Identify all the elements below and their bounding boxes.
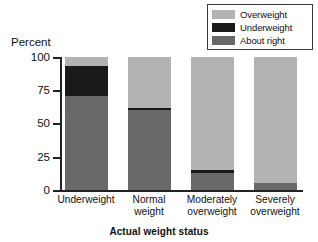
bar-underweight — [65, 57, 108, 190]
legend-label-underweight: Underweight — [240, 22, 292, 33]
bar-normal-weight — [128, 57, 171, 190]
y-tick-label-25: 25 — [10, 151, 50, 163]
x-axis-line — [56, 190, 303, 192]
bar-segment-about-right — [254, 183, 297, 190]
y-tick-100 — [53, 57, 61, 59]
bar-segment-overweight — [128, 57, 171, 108]
bar-segment-overweight — [191, 57, 234, 170]
x-label-line: overweight — [232, 206, 318, 218]
legend-item-underweight: Underweight — [212, 21, 308, 33]
legend-swatch-underweight — [212, 23, 235, 32]
x-axis-title: Actual weight status — [0, 226, 318, 237]
legend-swatch-about-right — [212, 36, 235, 45]
y-tick-25 — [53, 157, 61, 159]
y-tick-50 — [53, 123, 61, 125]
bar-severely-overweight — [254, 57, 297, 190]
bar-segment-about-right — [65, 96, 108, 190]
legend-swatch-overweight — [212, 10, 235, 19]
x-category-label-severely-overweight: Severely overweight — [232, 194, 318, 217]
y-tick-label-75: 75 — [10, 84, 50, 96]
x-label-line: Severely — [232, 194, 318, 206]
y-tick-0 — [53, 190, 61, 192]
chart-legend: Overweight Underweight About right — [207, 4, 313, 50]
legend-label-overweight: Overweight — [240, 9, 287, 20]
y-tick-75 — [53, 90, 61, 92]
legend-item-overweight: Overweight — [212, 8, 308, 20]
bar-segment-underweight — [65, 66, 108, 95]
legend-label-about-right: About right — [240, 35, 285, 46]
stacked-bar-chart: Overweight Underweight About right Perce… — [0, 0, 318, 242]
legend-item-about-right: About right — [212, 34, 308, 46]
y-tick-label-50: 50 — [10, 117, 50, 129]
bar-moderately-overweight — [191, 57, 234, 190]
bar-segment-about-right — [128, 110, 171, 190]
y-axis-title: Percent — [11, 36, 51, 49]
bar-segment-about-right — [191, 173, 234, 190]
plot-area — [61, 57, 301, 190]
bar-segment-overweight — [254, 57, 297, 183]
bar-segment-overweight — [65, 57, 108, 66]
y-tick-label-100: 100 — [10, 51, 50, 63]
